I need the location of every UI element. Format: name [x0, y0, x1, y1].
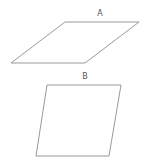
label-b: B: [82, 72, 88, 81]
parallelogram-a: [11, 22, 139, 63]
parallelogram-b: [36, 85, 121, 156]
diagram-canvas: A B: [0, 0, 141, 167]
shape-a-group: A: [11, 9, 139, 63]
label-a: A: [97, 9, 103, 18]
shape-b-group: B: [36, 72, 121, 156]
